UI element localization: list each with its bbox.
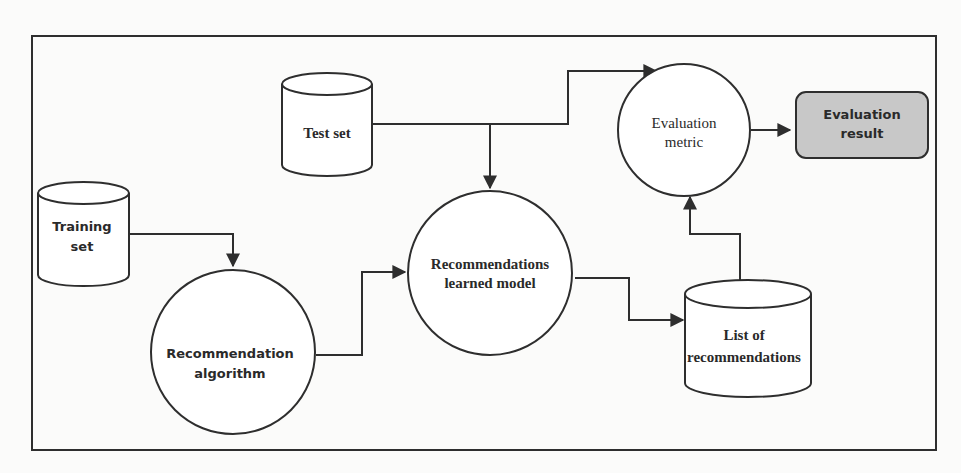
node-evaluation-result: Evaluation result — [796, 92, 928, 158]
cylinder-icon — [685, 294, 811, 397]
algorithm-label-line2: algorithm — [194, 366, 265, 381]
test-set-label: Test set — [303, 125, 350, 141]
process-circle — [408, 191, 572, 355]
node-test-set: Test set — [282, 73, 372, 176]
eval-result-label-line1: Evaluation — [823, 107, 900, 122]
eval-metric-label-line2: metric — [665, 134, 704, 150]
algorithm-label-line1: Recommendation — [166, 346, 294, 361]
learned-model-label-line1: Recommendations — [431, 256, 549, 272]
edge-list-to-evalmetric — [690, 197, 740, 280]
node-list-of-recommendations: List of recommendations — [685, 280, 811, 397]
list-label-line2: recommendations — [687, 349, 801, 365]
learned-model-label-line2: learned model — [444, 275, 535, 291]
node-recommendation-algorithm: Recommendation algorithm — [151, 270, 315, 434]
training-set-label-line1: Training — [52, 219, 111, 234]
edge-testset-to-evalmetric — [372, 71, 656, 124]
list-label-line1: List of — [723, 327, 765, 343]
eval-metric-label-line1: Evaluation — [652, 115, 717, 131]
training-set-label-line2: set — [71, 239, 94, 254]
result-box — [796, 92, 928, 158]
edge-learnedmodel-to-list — [575, 278, 683, 320]
node-training-set: Training set — [38, 182, 129, 286]
node-evaluation-metric: Evaluation metric — [618, 64, 750, 196]
node-recommendations-learned-model: Recommendations learned model — [408, 191, 572, 355]
edge-trainingset-to-algorithm — [129, 234, 233, 266]
recommender-evaluation-diagram: Test set Training set Recommendation alg… — [0, 0, 961, 473]
edge-algorithm-to-learnedmodel — [316, 272, 405, 355]
eval-result-label-line2: result — [841, 126, 884, 141]
